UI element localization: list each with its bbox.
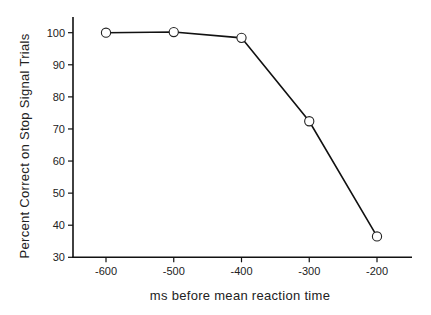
y-tick-label: 100 [47, 27, 65, 39]
data-point [101, 28, 110, 37]
data-point [305, 117, 314, 126]
y-tick-label: 60 [53, 155, 65, 167]
y-tick-label: 90 [53, 59, 65, 71]
x-axis-title: ms before mean reaction time [150, 288, 330, 303]
series-line [106, 32, 377, 236]
y-tick-label: 40 [53, 219, 65, 231]
y-tick-label: 70 [53, 123, 65, 135]
plot-area [101, 27, 381, 241]
y-axis: 30405060708090100 [47, 17, 73, 263]
y-tick-label: 80 [53, 91, 65, 103]
y-tick-label: 50 [53, 187, 65, 199]
data-point [372, 232, 381, 241]
y-axis-title: Percent Correct on Stop Signal Trials [17, 33, 32, 258]
x-tick-label: -400 [230, 265, 252, 277]
x-tick-label: -600 [95, 265, 117, 277]
x-tick-label: -200 [366, 265, 388, 277]
x-tick-label: -500 [163, 265, 185, 277]
line-chart: 30405060708090100 -600-500-400-300-200 m… [0, 0, 431, 315]
data-point [237, 33, 246, 42]
data-point [169, 27, 178, 36]
x-axis: -600-500-400-300-200 [72, 257, 412, 277]
y-tick-label: 30 [53, 251, 65, 263]
x-tick-label: -300 [298, 265, 320, 277]
